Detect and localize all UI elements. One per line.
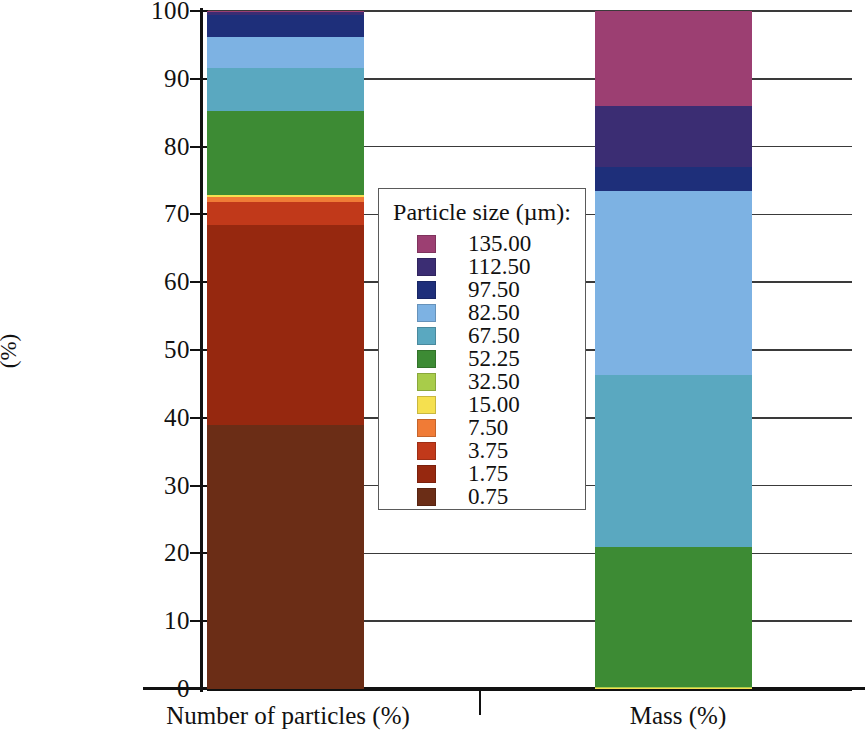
bar-segment-7.50 (207, 197, 364, 202)
y-tick-mark-30 (190, 485, 208, 487)
legend-item: 135.00 (379, 232, 585, 255)
y-tick-label-60: 60 (132, 269, 190, 294)
legend-item-label: 52.25 (468, 347, 520, 370)
y-tick-label-90: 90 (132, 66, 190, 91)
bar-segment-52.25 (207, 111, 364, 195)
y-tick-mark-10 (190, 620, 208, 622)
legend-item: 97.50 (379, 278, 585, 301)
legend-item: 32.50 (379, 370, 585, 393)
y-axis-line (200, 8, 203, 692)
legend-swatch-icon (417, 465, 436, 483)
bar-segment-112.50 (595, 106, 752, 167)
bar-segment-112.50 (207, 12, 364, 15)
legend-item: 52.25 (379, 347, 585, 370)
legend-swatch-icon (417, 396, 436, 414)
y-tick-mark-60 (190, 281, 208, 283)
legend-item-label: 112.50 (468, 255, 530, 278)
legend-item: 67.50 (379, 324, 585, 347)
legend-item-label: 3.75 (468, 439, 508, 462)
y-axis-tick-labels: 0102030405060708090100 (118, 11, 190, 689)
legend-item-label: 0.75 (468, 485, 508, 508)
bar-segment-32.50 (595, 687, 752, 688)
legend-title: Particle size (µm): (379, 199, 585, 226)
legend-swatch-icon (417, 350, 436, 368)
legend-swatch-icon (417, 488, 436, 506)
legend-swatch-icon (417, 327, 436, 345)
y-tick-label-10: 10 (132, 608, 190, 633)
stacked-bar-mass (595, 11, 752, 689)
legend-item-label: 1.75 (468, 462, 508, 485)
legend-swatch-icon (417, 258, 436, 276)
y-tick-label-30: 30 (132, 473, 190, 498)
legend-item: 112.50 (379, 255, 585, 278)
bar-segment-97.50 (595, 167, 752, 191)
legend-swatch-icon (417, 419, 436, 437)
bar-segment-97.50 (207, 15, 364, 37)
y-tick-mark-80 (190, 146, 208, 148)
y-tick-label-80: 80 (132, 134, 190, 159)
category-divider-tick (479, 689, 481, 715)
y-tick-mark-100 (190, 10, 208, 12)
bar-segment-3.75 (207, 202, 364, 224)
x-axis-label-mass: Mass (%) (533, 702, 823, 730)
bar-segment-135.00 (595, 11, 752, 106)
legend-item-label: 15.00 (468, 393, 520, 416)
y-tick-label-20: 20 (132, 540, 190, 565)
y-tick-label-100: 100 (132, 0, 190, 23)
legend-item-label: 97.50 (468, 278, 520, 301)
y-tick-label-40: 40 (132, 405, 190, 430)
bar-segment-135.00 (207, 11, 364, 12)
y-tick-label-50: 50 (132, 337, 190, 362)
legend-item-label: 135.00 (468, 232, 531, 255)
y-tick-mark-40 (190, 417, 208, 419)
y-tick-mark-20 (190, 552, 208, 554)
stacked-bar-number-of-particles (207, 11, 364, 689)
bar-segment-0.75 (207, 425, 364, 689)
legend-item: 3.75 (379, 439, 585, 462)
legend-item-label: 32.50 (468, 370, 520, 393)
x-axis-label-number-of-particles: Number of particles (%) (143, 702, 433, 730)
legend-item-label: 67.50 (468, 324, 520, 347)
y-tick-mark-50 (190, 349, 208, 351)
legend-swatch-icon (417, 442, 436, 460)
legend-item: 7.50 (379, 416, 585, 439)
y-axis-title: (%) (0, 334, 22, 368)
legend-item-list: 135.00112.5097.5082.5067.5052.2532.5015.… (379, 232, 585, 508)
bar-segment-82.50 (207, 37, 364, 68)
legend-item: 15.00 (379, 393, 585, 416)
legend: Particle size (µm): 135.00112.5097.5082.… (378, 188, 586, 510)
bar-segment-82.50 (595, 191, 752, 375)
legend-item-label: 7.50 (468, 416, 508, 439)
y-tick-label-70: 70 (132, 201, 190, 226)
y-tick-mark-70 (190, 213, 208, 215)
legend-item: 0.75 (379, 485, 585, 508)
legend-item-label: 82.50 (468, 301, 520, 324)
legend-swatch-icon (417, 281, 436, 299)
legend-swatch-icon (417, 304, 436, 322)
bar-segment-1.75 (207, 225, 364, 425)
bar-segment-15.00 (207, 195, 364, 197)
legend-swatch-icon (417, 373, 436, 391)
bar-segment-67.50 (207, 68, 364, 111)
legend-item: 82.50 (379, 301, 585, 324)
bar-segment-15.00 (595, 688, 752, 689)
stacked-bar-chart: 0102030405060708090100 (%) Number of par… (0, 0, 865, 736)
bar-segment-52.25 (595, 547, 752, 687)
y-tick-mark-90 (190, 78, 208, 80)
legend-item: 1.75 (379, 462, 585, 485)
legend-swatch-icon (417, 235, 436, 253)
bar-segment-67.50 (595, 375, 752, 547)
